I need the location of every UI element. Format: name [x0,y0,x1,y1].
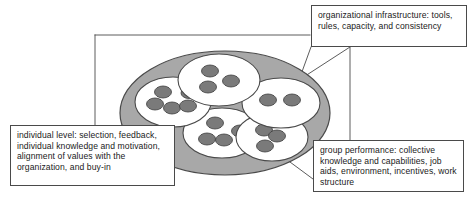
individual-dot [257,140,274,152]
callout-individual-level-text: individual level: selection, feedback, i… [17,130,169,172]
individual-dot [200,81,217,93]
group-circle [178,54,260,106]
individual-dot [199,133,216,145]
individual-dot [164,102,181,114]
individual-dot [223,75,240,87]
individual-dot [207,117,224,129]
group-top [178,54,260,106]
diagram-canvas: organizational infrastructure: tools, ru… [0,0,470,209]
callout-organizational-infrastructure: organizational infrastructure: tools, ru… [311,5,467,47]
callout-group-performance: group performance: collective knowledge … [313,140,464,192]
individual-dot [180,100,197,112]
callout-group-performance-text: group performance: collective knowledge … [320,145,458,187]
callout-organizational-infrastructure-text: organizational infrastructure: tools, ru… [318,10,461,31]
individual-dot [202,65,219,77]
individual-dot [260,94,277,106]
individual-dot [147,98,164,110]
callout-individual-level: individual level: selection, feedback, i… [10,125,175,186]
individual-dot [269,130,286,142]
individual-dot [216,134,233,146]
individual-dot [155,86,172,98]
individual-dot [284,94,301,106]
